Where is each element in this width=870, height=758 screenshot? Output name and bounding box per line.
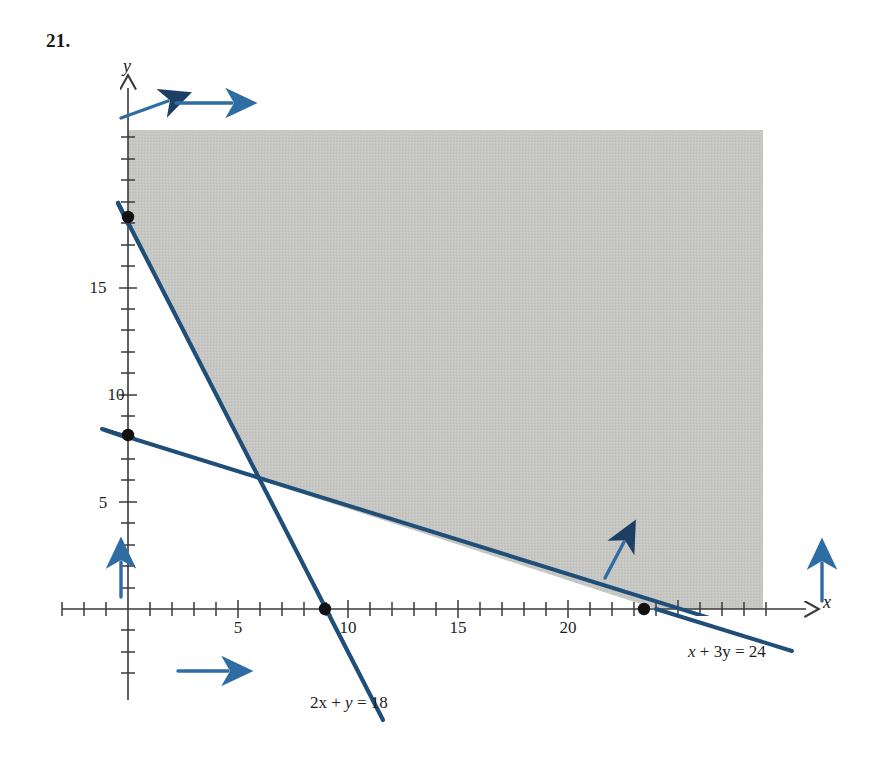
equation-label-line1: 2x + y = 18 xyxy=(310,693,388,713)
y-tick-label-5: 5 xyxy=(93,493,113,513)
point-0-18 xyxy=(122,211,134,223)
point-0-8 xyxy=(122,429,134,441)
y-axis-label: y xyxy=(123,56,131,77)
equation-label-line2: x + 3y = 24 xyxy=(688,642,766,662)
x-axis-label: x xyxy=(823,592,831,613)
x-tick-label-10: 10 xyxy=(333,618,363,638)
x-tick-label-15: 15 xyxy=(443,618,473,638)
point-9-0 xyxy=(319,603,331,615)
y-tick-label-10: 10 xyxy=(101,385,131,405)
x-tick-label-20: 20 xyxy=(553,618,583,638)
point-24-0 xyxy=(638,603,650,615)
x-tick-label-5: 5 xyxy=(228,618,248,638)
y-tick-label-15: 15 xyxy=(83,278,113,298)
